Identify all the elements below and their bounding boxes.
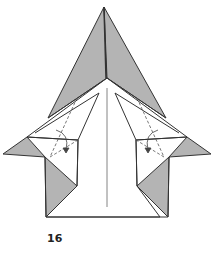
left-arrowhead-icon bbox=[63, 148, 69, 153]
left-wing-flap bbox=[3, 137, 45, 157]
right-arrowhead-icon bbox=[145, 148, 151, 153]
right-wing-flap bbox=[169, 137, 211, 157]
origami-diagram bbox=[0, 0, 224, 254]
step-number: 16 bbox=[47, 232, 62, 245]
